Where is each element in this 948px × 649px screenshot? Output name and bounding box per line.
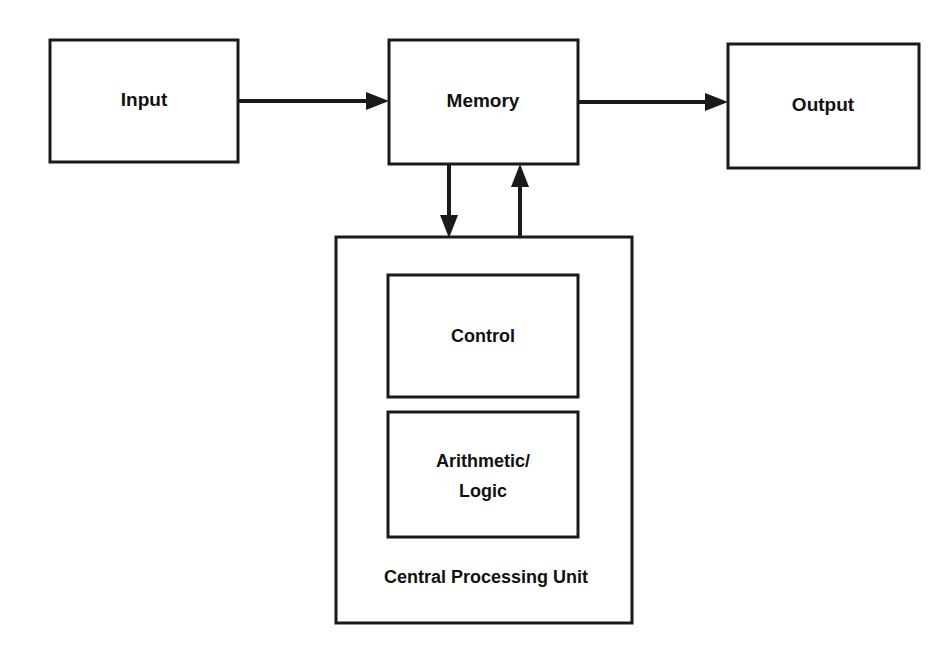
node-control[interactable]: Control — [388, 275, 578, 397]
node-output-label: Output — [792, 94, 855, 115]
node-input[interactable]: Input — [50, 40, 238, 162]
edge-cpu-to-memory — [511, 164, 529, 237]
node-memory[interactable]: Memory — [389, 40, 578, 164]
edge-cpu-to-memory-arrowhead — [511, 164, 529, 187]
edge-memory-to-cpu — [440, 164, 458, 238]
node-arithmetic-logic-box[interactable] — [388, 412, 578, 537]
diagram-svg: Input Memory Output Control Arithmetic/ — [0, 0, 948, 649]
edge-memory-to-output-arrowhead — [705, 93, 728, 111]
node-cpu-caption: Central Processing Unit — [384, 567, 588, 587]
edge-memory-to-output — [578, 93, 728, 111]
node-control-label: Control — [451, 326, 515, 346]
edge-input-to-memory — [238, 92, 389, 110]
node-arithmetic-logic-label-line1: Arithmetic/ — [436, 451, 530, 471]
node-output[interactable]: Output — [728, 44, 919, 168]
edge-memory-to-cpu-arrowhead — [440, 215, 458, 238]
block-diagram-canvas: Input Memory Output Control Arithmetic/ — [0, 0, 948, 649]
node-arithmetic-logic-label-line2: Logic — [459, 481, 507, 501]
node-memory-label: Memory — [447, 90, 520, 111]
edge-input-to-memory-arrowhead — [366, 92, 389, 110]
node-central-processing-unit[interactable]: Control Arithmetic/ Logic Central Proces… — [336, 237, 632, 623]
node-arithmetic-logic[interactable]: Arithmetic/ Logic — [388, 412, 578, 537]
node-input-label: Input — [121, 89, 168, 110]
